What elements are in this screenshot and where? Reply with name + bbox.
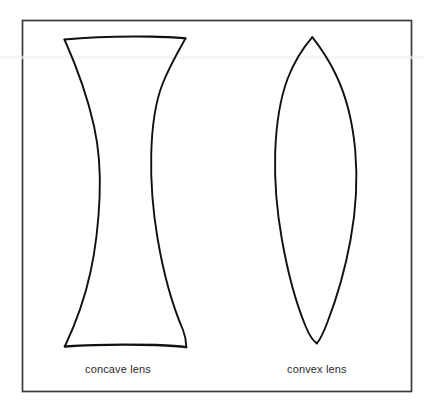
diagram-canvas: concave lens convex lens: [0, 0, 424, 412]
convex-right-edge: [312, 37, 356, 343]
concave-top-edge: [65, 36, 186, 39]
concave-bottom-edge: [65, 345, 187, 348]
convex-left-edge: [275, 37, 317, 343]
concave-lens-shape: [65, 36, 187, 347]
convex-lens-shape: [275, 37, 356, 343]
concave-right-edge: [151, 38, 186, 347]
concave-lens-label: concave lens: [85, 363, 151, 375]
concave-left-edge: [65, 40, 100, 347]
convex-lens-label: convex lens: [287, 363, 347, 375]
lens-drawings: [0, 0, 424, 412]
